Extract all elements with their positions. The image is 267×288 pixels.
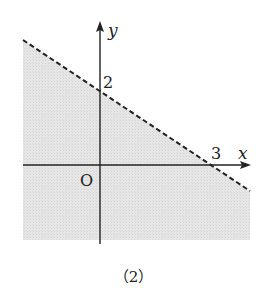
figure-caption: （2）: [0, 265, 267, 286]
x-axis-label: x: [238, 143, 248, 163]
x-intercept-label: 3: [211, 144, 221, 163]
shaded-region: [23, 40, 250, 240]
y-intercept-label: 2: [103, 73, 113, 92]
y-axis-label: y: [107, 20, 118, 40]
origin-label: O: [80, 171, 93, 190]
inequality-graph: y x 2 3 O: [0, 0, 267, 288]
